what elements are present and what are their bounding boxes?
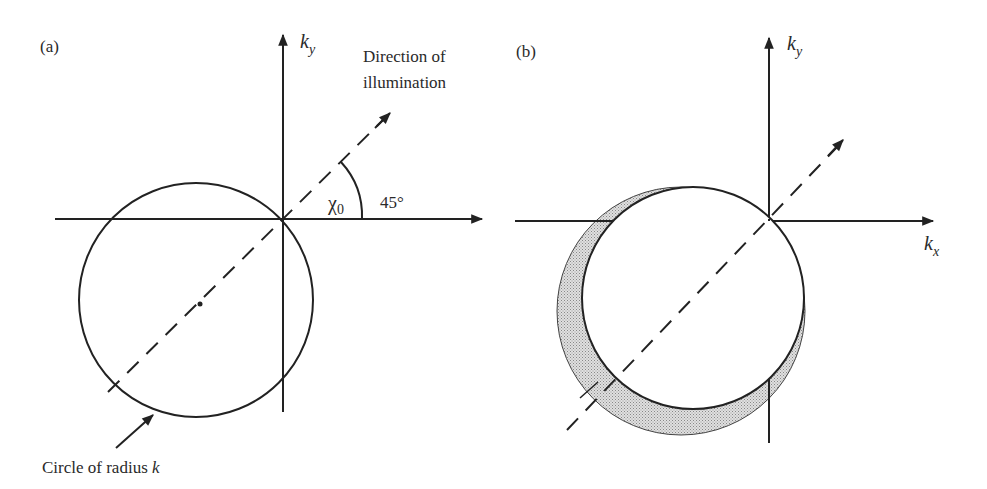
- illumination-direction-line: [108, 118, 385, 392]
- ky-axis-label-b: ky: [787, 32, 803, 59]
- panel-b: (b) ky kx: [515, 32, 940, 443]
- illumination-arrow: [375, 113, 390, 128]
- panel-a-label: (a): [40, 37, 59, 56]
- caption-pointer-arrow: [116, 415, 153, 448]
- panel-b-label: (b): [516, 42, 536, 61]
- panel-a: (a) ky χ0 45° Direction of illumination …: [40, 30, 482, 477]
- illumination-arrow-b: [828, 140, 843, 156]
- ky-axis-label: ky: [300, 30, 316, 57]
- angle-arc: [341, 162, 362, 219]
- direction-label-line1: Direction of: [363, 47, 446, 66]
- inner-circle: [582, 187, 804, 409]
- circle-center-dot: [198, 302, 203, 307]
- angle-value: 45°: [380, 193, 404, 212]
- kx-axis-label-b: kx: [924, 232, 940, 259]
- direction-label-line2: illumination: [363, 73, 447, 92]
- circle-caption: Circle of radius k: [42, 458, 160, 477]
- angle-symbol: χ0: [327, 192, 344, 217]
- figure-canvas: (a) ky χ0 45° Direction of illumination …: [0, 0, 987, 489]
